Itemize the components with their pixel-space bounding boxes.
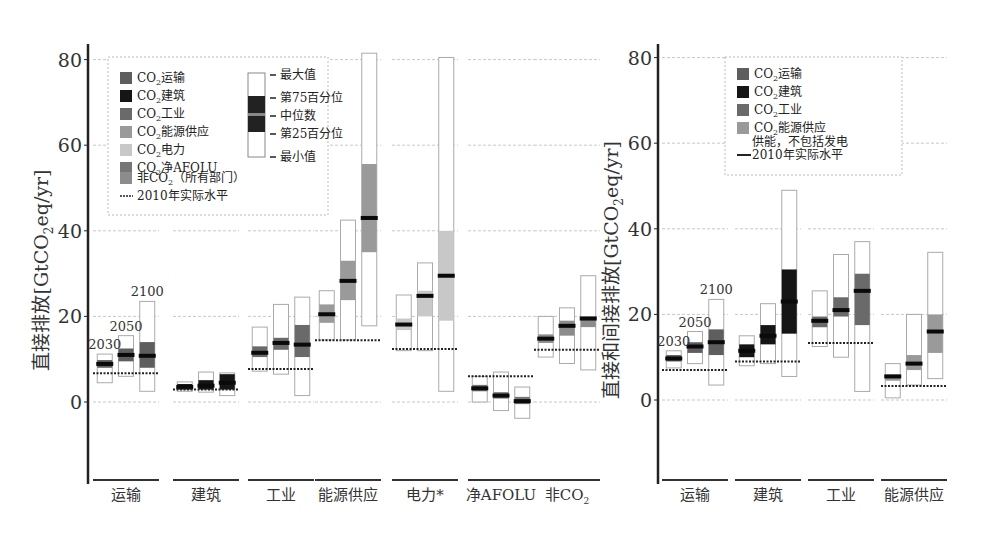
whisker-range bbox=[494, 372, 509, 411]
right-legend-actual: 2010年实际水平 bbox=[737, 147, 843, 162]
box-2050 bbox=[906, 314, 923, 385]
category-label: 工业 bbox=[266, 486, 296, 504]
box-2030 bbox=[318, 291, 335, 340]
svg-text:CO2建筑: CO2建筑 bbox=[137, 88, 185, 105]
svg-text:CO2运输: CO2运输 bbox=[137, 70, 185, 87]
svg-text:2010年实际水平: 2010年实际水平 bbox=[137, 188, 228, 203]
median-bar bbox=[580, 317, 597, 321]
category-label: 运输 bbox=[111, 486, 141, 504]
median-bar bbox=[811, 319, 828, 323]
left-tick-label: 40 bbox=[58, 220, 82, 242]
box-2050 bbox=[559, 308, 576, 364]
box-2100 bbox=[927, 252, 944, 378]
svg-text:直接排放[GtCO2eq/yr]: 直接排放[GtCO2eq/yr] bbox=[30, 169, 56, 370]
svg-text:2010年实际水平: 2010年实际水平 bbox=[752, 147, 843, 162]
year-label: 2030 bbox=[657, 334, 690, 349]
box-2100 bbox=[361, 53, 378, 326]
box-2050 bbox=[273, 304, 290, 374]
median-bar bbox=[219, 381, 236, 385]
category-label: 工业 bbox=[826, 486, 856, 504]
legend-swatch bbox=[120, 108, 132, 120]
right-tick-label: 60 bbox=[628, 132, 652, 154]
median-bar bbox=[665, 356, 682, 360]
legend-swatch bbox=[120, 126, 132, 138]
whisker-range bbox=[439, 57, 454, 391]
median-bar bbox=[395, 323, 412, 327]
median-bar bbox=[514, 399, 531, 403]
median-bar bbox=[738, 349, 755, 353]
legend-swatch bbox=[120, 72, 132, 84]
right-tick-label: 80 bbox=[628, 47, 652, 69]
left-legend: CO2运输CO2建筑CO2工业CO2能源供应CO2电力CO2净AFOLU 非CO… bbox=[108, 57, 343, 215]
box-2100 bbox=[139, 301, 156, 391]
median-bar bbox=[906, 362, 923, 366]
box-2030 bbox=[471, 376, 488, 402]
svg-text:CO2建筑: CO2建筑 bbox=[754, 84, 802, 101]
median-bar bbox=[471, 386, 488, 390]
median-bar bbox=[198, 384, 215, 388]
box-2100 bbox=[708, 299, 725, 385]
svg-text:CO2工业: CO2工业 bbox=[754, 103, 802, 119]
box-2030 bbox=[811, 291, 828, 347]
category-label: 非CO2 bbox=[545, 486, 590, 506]
box-key: 最大值第75百分位中位数第25百分位最小值 bbox=[248, 67, 343, 164]
year-label: 2050 bbox=[678, 315, 711, 330]
median-bar bbox=[318, 312, 335, 316]
year-label: 2100 bbox=[700, 282, 733, 297]
legend-swatch bbox=[120, 90, 132, 102]
median-bar bbox=[340, 279, 357, 283]
median-bar bbox=[273, 341, 290, 345]
category-label: 净AFOLU bbox=[466, 486, 536, 504]
box-2050 bbox=[340, 220, 357, 340]
box-2100 bbox=[219, 373, 236, 396]
right-tick-label: 20 bbox=[628, 303, 652, 325]
right-panel: 直接和间接排放[GtCO2eq/yr] 020406080 运输建筑工业能源供应… bbox=[600, 0, 981, 535]
box-2050 bbox=[760, 304, 777, 364]
category-label: 建筑 bbox=[753, 486, 783, 504]
year-label: 2100 bbox=[131, 284, 164, 299]
median-bar bbox=[251, 351, 268, 355]
box-2030 bbox=[251, 327, 268, 371]
box-2050 bbox=[493, 372, 510, 411]
year-label: 2030 bbox=[88, 337, 121, 352]
left-tick-label: 0 bbox=[70, 391, 82, 413]
category-label: 能源供应 bbox=[884, 486, 944, 504]
median-bar bbox=[96, 362, 113, 366]
box-2100 bbox=[294, 297, 311, 395]
box-2100 bbox=[781, 190, 798, 376]
median-bar bbox=[760, 334, 777, 338]
box-2100 bbox=[854, 242, 871, 392]
median-bar bbox=[781, 300, 798, 304]
median-bar bbox=[438, 274, 455, 278]
median-bar bbox=[417, 294, 434, 298]
svg-text:CO2运输: CO2运输 bbox=[754, 66, 802, 83]
left-tick-label: 60 bbox=[58, 134, 82, 156]
median-bar bbox=[833, 308, 850, 312]
left-legend-nonco2: 非CO2（所有部门） bbox=[120, 170, 245, 187]
category-label: 电力* bbox=[406, 486, 444, 504]
box-2030 bbox=[665, 351, 682, 368]
svg-text:CO2能源供应: CO2能源供应 bbox=[137, 124, 209, 141]
iqr-box bbox=[834, 297, 849, 316]
legend-swatch bbox=[737, 68, 749, 80]
iqr-box bbox=[928, 314, 943, 353]
right-chart: 直接和间接排放[GtCO2eq/yr] 020406080 运输建筑工业能源供应… bbox=[600, 0, 981, 535]
year-label: 2050 bbox=[109, 319, 142, 334]
category-label: 运输 bbox=[680, 486, 710, 504]
box-2100 bbox=[514, 387, 531, 418]
legend-swatch bbox=[120, 144, 132, 156]
left-tick-label: 80 bbox=[58, 49, 82, 71]
left-legend-actual: 2010年实际水平 bbox=[120, 188, 228, 203]
left-chart: 直接排放[GtCO2eq/yr] 020406080 运输建筑工业能源供应电力*… bbox=[0, 0, 600, 535]
legend-swatch bbox=[737, 86, 749, 98]
svg-text:CO2工业: CO2工业 bbox=[137, 107, 185, 123]
iqr-box bbox=[362, 164, 377, 252]
left-category-labels: 运输建筑工业能源供应电力*净AFOLU非CO2 bbox=[111, 486, 589, 506]
category-label: 能源供应 bbox=[318, 486, 378, 504]
median-bar bbox=[361, 216, 378, 220]
left-y-ticks: 020406080 bbox=[58, 49, 88, 413]
median-bar bbox=[176, 385, 193, 389]
iqr-box bbox=[855, 274, 870, 325]
median-bar bbox=[294, 343, 311, 347]
iqr-box bbox=[560, 321, 575, 336]
